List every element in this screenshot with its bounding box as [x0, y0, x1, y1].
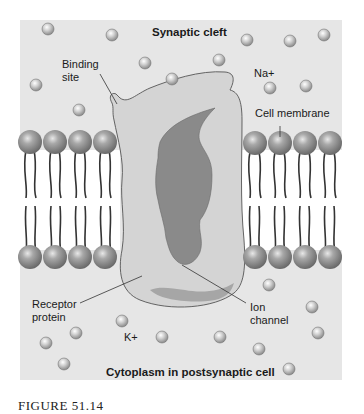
receptor-protein-label-line2: protein	[32, 311, 66, 323]
ion-channel-label-line1: Ion	[250, 301, 265, 313]
binding-site-label-line2: site	[62, 71, 79, 83]
receptor-protein-label-line1: Receptor	[32, 298, 77, 310]
sodium-ion-label: Na+	[254, 67, 275, 79]
membrane-interior-right	[240, 150, 342, 250]
potassium-ion-label: K+	[124, 331, 138, 343]
figure-caption: FIGURE 51.14	[18, 398, 103, 414]
cell-membrane-label: Cell membrane	[255, 107, 330, 119]
binding-site-label-line1: Binding	[62, 58, 99, 70]
synaptic-cleft-label: Synaptic cleft	[152, 26, 227, 38]
ion-channel-label-line2: channel	[250, 314, 289, 326]
cytoplasm-label: Cytoplasm in postsynaptic cell	[106, 366, 275, 378]
